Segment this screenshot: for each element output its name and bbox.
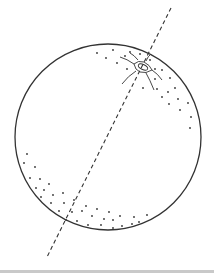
navel-marking [120, 53, 162, 90]
stipple-lower-left [23, 153, 148, 229]
orange-diagram [0, 0, 214, 273]
sphere-outline [15, 44, 201, 230]
